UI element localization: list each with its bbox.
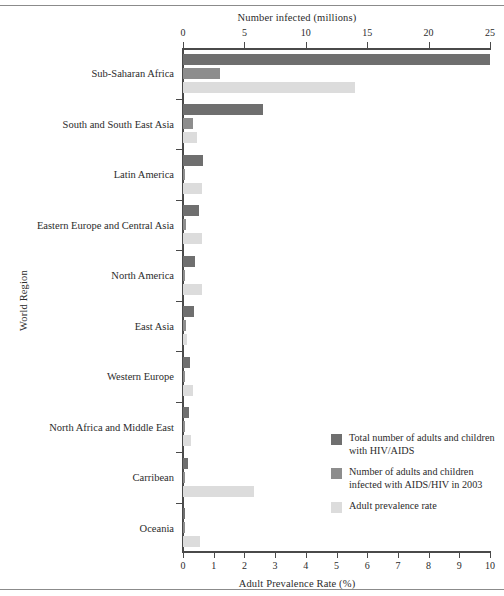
page-rule-bottom xyxy=(0,589,504,590)
y-axis-tick xyxy=(176,452,183,453)
bar xyxy=(183,435,191,446)
legend-label: Total number of adults and children with… xyxy=(349,432,503,457)
bottom-tick xyxy=(275,551,276,558)
bar xyxy=(183,320,186,331)
bottom-tick-label: 4 xyxy=(291,560,321,571)
legend-swatch xyxy=(331,468,342,479)
legend-label: Adult prevalence rate xyxy=(349,500,437,513)
bar xyxy=(183,486,254,497)
bottom-tick-label: 1 xyxy=(199,560,229,571)
bar xyxy=(183,357,190,368)
bar xyxy=(183,68,220,79)
bottom-tick xyxy=(367,551,368,558)
bar xyxy=(183,371,185,382)
y-axis-category-label: Eastern Europe and Central Asia xyxy=(37,219,174,230)
bottom-tick-label: 9 xyxy=(444,560,474,571)
bottom-tick-label: 0 xyxy=(168,560,198,571)
top-tick-label: 10 xyxy=(291,27,321,38)
page-rule-top xyxy=(0,5,504,6)
top-tick-label: 15 xyxy=(352,27,382,38)
bottom-tick xyxy=(459,551,460,558)
bottom-tick-label: 10 xyxy=(475,560,504,571)
chart-figure: Number infected (millions) Adult Prevale… xyxy=(0,0,504,596)
y-axis-title: World Region xyxy=(18,246,29,356)
top-tick-label: 0 xyxy=(168,27,198,38)
bar xyxy=(183,472,185,483)
y-axis-tick xyxy=(176,301,183,302)
bar xyxy=(183,407,189,418)
bottom-tick xyxy=(214,551,215,558)
bar xyxy=(183,256,195,267)
bar xyxy=(183,54,490,65)
bar xyxy=(183,82,355,93)
legend-label: Number of adults and children infected w… xyxy=(349,466,503,491)
top-tick xyxy=(367,42,368,49)
y-axis-tick xyxy=(176,250,183,251)
bottom-tick xyxy=(244,551,245,558)
bottom-tick-label: 7 xyxy=(383,560,413,571)
top-axis-title: Number infected (millions) xyxy=(0,12,504,23)
bar xyxy=(183,508,185,519)
y-axis-tick xyxy=(176,200,183,201)
chart-legend: Total number of adults and children with… xyxy=(331,432,503,522)
top-tick xyxy=(429,42,430,49)
y-axis-tick xyxy=(176,99,183,100)
y-axis-category-label: Western Europe xyxy=(107,371,174,382)
y-axis-category-label: South and South East Asia xyxy=(63,118,174,129)
bottom-tick-label: 6 xyxy=(352,560,382,571)
top-tick xyxy=(306,42,307,49)
top-tick xyxy=(490,42,491,49)
bar xyxy=(183,132,197,143)
top-tick-label: 5 xyxy=(229,27,259,38)
bar xyxy=(183,421,185,432)
bottom-tick xyxy=(398,551,399,558)
legend-item: Total number of adults and children with… xyxy=(331,432,503,457)
bottom-tick xyxy=(183,551,184,558)
bottom-tick xyxy=(337,551,338,558)
bar xyxy=(183,183,202,194)
y-axis-tick xyxy=(176,503,183,504)
bar xyxy=(183,104,263,115)
bottom-tick-label: 2 xyxy=(229,560,259,571)
y-axis-tick xyxy=(176,351,183,352)
y-axis-category-label: Carribean xyxy=(133,472,174,483)
bottom-tick-label: 8 xyxy=(414,560,444,571)
bar xyxy=(183,284,202,295)
legend-swatch xyxy=(331,434,342,445)
y-axis-category-label: North America xyxy=(111,270,174,281)
y-axis-category-label: Latin America xyxy=(114,169,174,180)
axis-spine-top xyxy=(182,48,491,50)
bar xyxy=(183,270,185,281)
top-tick xyxy=(244,42,245,49)
bottom-tick xyxy=(490,551,491,558)
y-axis-category-label: Oceania xyxy=(140,522,174,533)
bar xyxy=(183,219,186,230)
bar xyxy=(183,522,185,533)
bottom-tick-label: 5 xyxy=(322,560,352,571)
bottom-tick-label: 3 xyxy=(260,560,290,571)
top-tick-label: 20 xyxy=(414,27,444,38)
bottom-tick xyxy=(306,551,307,558)
y-axis-category-label: East Asia xyxy=(135,320,174,331)
top-tick xyxy=(183,42,184,49)
bar xyxy=(183,334,187,345)
legend-item: Number of adults and children infected w… xyxy=(331,466,503,491)
bar xyxy=(183,233,202,244)
bottom-tick xyxy=(429,551,430,558)
bar xyxy=(183,536,200,547)
bar xyxy=(183,118,193,129)
legend-item: Adult prevalence rate xyxy=(331,500,503,513)
bar xyxy=(183,385,193,396)
y-axis-category-label: Sub-Saharan Africa xyxy=(91,68,174,79)
bar xyxy=(183,205,199,216)
legend-swatch xyxy=(331,502,342,513)
y-axis-tick xyxy=(176,402,183,403)
bar xyxy=(183,306,194,317)
top-tick-label: 25 xyxy=(475,27,504,38)
y-axis-category-label: North Africa and Middle East xyxy=(49,421,174,432)
bar xyxy=(183,155,203,166)
y-axis-tick xyxy=(176,149,183,150)
bar xyxy=(183,458,188,469)
bar xyxy=(183,169,185,180)
bottom-axis-title: Adult Prevalence Rate (%) xyxy=(0,578,504,589)
